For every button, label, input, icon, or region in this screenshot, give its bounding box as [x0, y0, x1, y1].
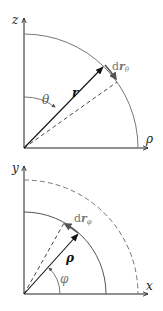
- top-diagram: z ρ r θ drθ: [11, 13, 153, 148]
- displaced-radius-dashed: [24, 82, 117, 148]
- coordinate-diagrams: z ρ r θ drθ y x ρ φ drφ: [0, 0, 163, 311]
- phi-label: φ: [60, 272, 69, 286]
- theta-angle-arc: [24, 97, 55, 107]
- rho-axis-label: ρ: [145, 132, 153, 146]
- r-vector: [24, 67, 103, 148]
- z-axis-label: z: [11, 13, 19, 27]
- projected-sphere-arc-dashed: [24, 180, 138, 294]
- rho-vector-label: ρ: [65, 251, 75, 265]
- bottom-diagram: y x ρ φ drφ: [11, 161, 153, 294]
- theta-label: θ: [42, 93, 50, 107]
- dr-theta-label: drθ: [112, 60, 130, 74]
- phi-angle-arc: [49, 268, 60, 294]
- r-vector-label: r: [72, 86, 80, 100]
- displaced-radius-dashed: [24, 223, 64, 294]
- y-axis-label: y: [11, 161, 19, 175]
- x-axis-label: x: [146, 279, 153, 293]
- dr-phi-label: drφ: [74, 212, 92, 226]
- dr-phi-arrow: [65, 224, 78, 233]
